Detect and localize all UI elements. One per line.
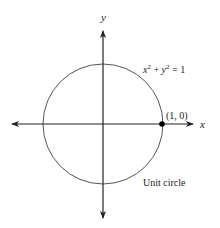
- point-label: (1, 0): [166, 110, 188, 122]
- x-axis-label: x: [199, 118, 205, 130]
- point-1-0: [159, 121, 165, 127]
- caption: Unit circle: [143, 177, 186, 188]
- y-axis-label: y: [100, 11, 106, 23]
- unit-circle-diagram: y x x2 + y2 = 1 (1, 0) Unit circle: [0, 0, 220, 228]
- circle-equation: x2 + y2 = 1: [142, 63, 185, 75]
